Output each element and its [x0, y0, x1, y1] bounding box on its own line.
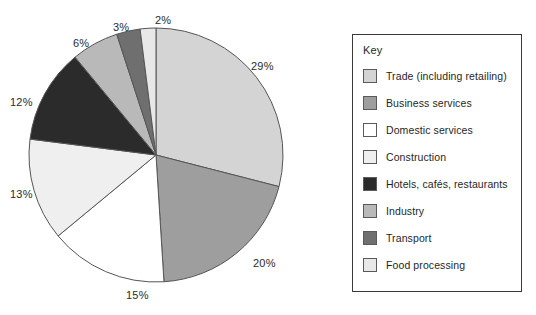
- pie-percent-label: 12%: [10, 96, 33, 108]
- chart-page: 29%20%15%13%12%6%3%2% Key Trade (includi…: [0, 0, 536, 315]
- legend-box: Key Trade (including retailing)Business …: [352, 34, 522, 292]
- legend-swatch-icon: [363, 69, 377, 83]
- pie-percent-label: 29%: [251, 60, 274, 72]
- legend-item: Business services: [363, 90, 521, 116]
- legend-item: Food processing: [363, 252, 521, 278]
- legend-item-label: Domestic services: [386, 124, 473, 136]
- legend-item-label: Food processing: [386, 259, 465, 271]
- legend-item: Transport: [363, 225, 521, 251]
- legend-item: Hotels, cafés, restaurants: [363, 171, 521, 197]
- legend-item-label: Hotels, cafés, restaurants: [386, 178, 508, 190]
- legend-swatch-icon: [363, 258, 377, 272]
- legend-swatch-icon: [363, 177, 377, 191]
- legend-swatch-icon: [363, 96, 377, 110]
- legend-item-label: Construction: [386, 151, 446, 163]
- pie-percent-label: 15%: [126, 289, 149, 301]
- legend-item-label: Business services: [386, 97, 472, 109]
- legend-item: Trade (including retailing): [363, 63, 521, 89]
- pie-chart: 29%20%15%13%12%6%3%2%: [0, 0, 330, 315]
- legend-item: Construction: [363, 144, 521, 170]
- pie-percent-label: 20%: [253, 257, 276, 269]
- pie-percent-label: 2%: [155, 14, 171, 26]
- legend-swatch-icon: [363, 123, 377, 137]
- pie-slices: [29, 28, 283, 282]
- legend-swatch-icon: [363, 204, 377, 218]
- legend-item-label: Transport: [386, 232, 431, 244]
- legend-swatch-icon: [363, 231, 377, 245]
- pie-chart-svg: [0, 0, 330, 315]
- legend-swatch-icon: [363, 150, 377, 164]
- pie-percent-label: 6%: [73, 37, 89, 49]
- legend-item: Industry: [363, 198, 521, 224]
- pie-percent-label: 3%: [113, 21, 129, 33]
- legend-item-label: Industry: [386, 205, 424, 217]
- legend-item-label: Trade (including retailing): [386, 70, 507, 82]
- legend-title: Key: [363, 44, 521, 56]
- pie-percent-label: 13%: [10, 188, 33, 200]
- legend-items: Trade (including retailing)Business serv…: [363, 63, 521, 278]
- legend-item: Domestic services: [363, 117, 521, 143]
